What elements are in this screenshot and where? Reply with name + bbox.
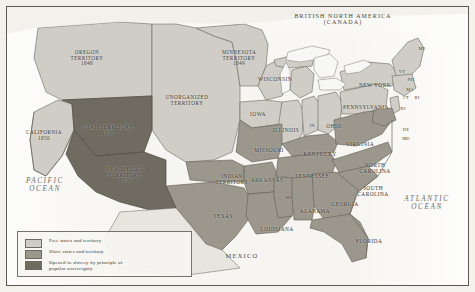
state-label-delaware: DE xyxy=(400,128,412,133)
state-label-maryland: MD xyxy=(400,137,412,142)
legend-swatch-slave xyxy=(25,250,42,259)
legend-item-slave-states: Slave states and territory xyxy=(25,249,104,259)
state-label-alabama: ALABAMA xyxy=(296,209,334,215)
state-label-iowa: IOWA xyxy=(245,112,271,118)
state-label-indiana: IN xyxy=(306,124,318,129)
state-label-north-carolina: NORTH CAROLINA xyxy=(355,163,395,175)
unorganized-territory-label: UNORGANIZED TERRITORY xyxy=(152,95,222,106)
state-label-mississippi: MS xyxy=(283,196,295,201)
state-label-new-york: NEW YORK xyxy=(355,83,395,89)
atlantic-ocean-label: ATLANTIC OCEAN xyxy=(392,196,462,212)
legend-item-popular-sovereignty: Opened to slavery by principle of popula… xyxy=(25,260,123,273)
state-label-south-carolina: SOUTH CAROLINA xyxy=(353,186,393,198)
state-label-maine: ME xyxy=(416,47,428,52)
state-label-pennsylvania: PENNSYLVANIA xyxy=(340,105,392,111)
state-label-wisconsin: WISCONSIN xyxy=(253,77,297,83)
state-label-kentucky: KENTUCKY xyxy=(300,152,340,158)
legend-label-slave: Slave states and territory xyxy=(49,249,104,255)
minnesota-territory-label: MINNESOTA TERRITORY 1849 xyxy=(210,50,268,67)
legend-swatch-free xyxy=(25,239,42,248)
state-label-florida: FLORIDA xyxy=(352,239,386,245)
legend-label-free: Free states and territory xyxy=(49,238,101,244)
state-label-tennessee: TENNESSEE xyxy=(290,174,334,180)
state-label-new-hampshire: NH xyxy=(405,78,417,83)
utah-territory-label: UTAH TERRITORY 1850 xyxy=(72,125,144,136)
state-label-illinois: ILLINOIS xyxy=(268,128,304,134)
legend-item-free-states: Free states and territory xyxy=(25,238,101,248)
state-label-arkansas: ARKANSAS xyxy=(247,178,287,184)
state-label-ohio: OHIO xyxy=(322,124,346,130)
new-mexico-territory-label: NEW MEXICO TERRITORY 1850 xyxy=(95,167,155,184)
state-label-texas: TEXAS xyxy=(208,214,238,220)
map-figure: PACIFIC OCEAN ATLANTIC OCEAN BRITISH NOR… xyxy=(0,0,475,292)
state-label-vermont: VT xyxy=(396,70,408,75)
pacific-ocean-label: PACIFIC OCEAN xyxy=(14,178,76,194)
legend-label-popular-sovereignty: Opened to slavery by principle of popula… xyxy=(49,260,123,273)
state-label-virginia: VIRGINIA xyxy=(341,142,379,148)
mexico-label: MEXICO xyxy=(212,253,272,260)
state-label-georgia: GEORGIA xyxy=(327,202,363,208)
state-label-massachusetts: MA xyxy=(404,88,416,93)
state-label-louisiana: LOUISIANA xyxy=(256,227,298,233)
state-label-rhode-island: RI xyxy=(412,96,422,101)
oregon-territory-label: OREGON TERRITORY 1848 xyxy=(59,50,115,67)
california-label: CALIFORNIA 1850 xyxy=(18,130,70,141)
british-north-america-label: BRITISH NORTH AMERICA (CANADA) xyxy=(287,13,399,26)
state-label-missouri: MISSOURI xyxy=(250,148,288,154)
state-label-new-jersey: NJ xyxy=(397,107,409,112)
map-legend: Free states and territory Slave states a… xyxy=(17,231,192,277)
state-label-connecticut: CT xyxy=(401,96,411,101)
legend-swatch-popular-sovereignty xyxy=(25,261,42,270)
